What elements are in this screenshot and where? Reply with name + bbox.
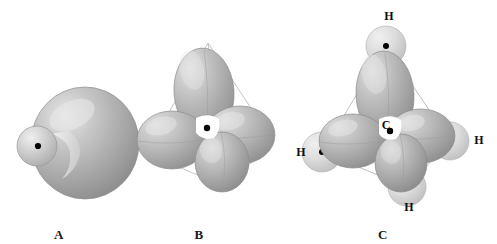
- panel-a-graphic: [0, 0, 150, 215]
- panel-c-methane-molecule: H H H H C C: [285, 0, 497, 244]
- atom-label-h-right: H: [469, 133, 489, 148]
- orbital-figure: A: [0, 0, 497, 244]
- nucleus-dot: [204, 125, 210, 131]
- nucleus-dot: [35, 143, 41, 149]
- atom-label-h-top: H: [379, 9, 399, 24]
- bond-lobe-front: [375, 134, 427, 192]
- sp3-lobe-front: [195, 132, 249, 192]
- panel-label-b: B: [187, 227, 211, 243]
- panel-label-a: A: [47, 227, 71, 243]
- panel-c-graphic: [285, 0, 497, 215]
- atom-label-carbon: C: [376, 118, 396, 133]
- atom-label-h-left: H: [291, 145, 311, 160]
- panel-b-tetrahedral-sp3-set: B: [130, 0, 290, 244]
- panel-a-single-sp3-orbital: A: [0, 0, 150, 244]
- panel-label-c: C: [371, 227, 395, 243]
- atom-label-h-bottom: H: [399, 200, 419, 215]
- panel-b-graphic: [130, 0, 310, 215]
